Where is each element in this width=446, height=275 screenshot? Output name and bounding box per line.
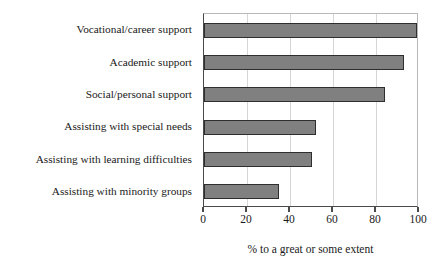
x-tick-label: 60 — [326, 213, 338, 226]
x-tick-label: 0 — [200, 213, 206, 226]
x-tick-label: 40 — [283, 213, 295, 226]
bar — [204, 184, 279, 199]
x-tick-label: 20 — [240, 213, 252, 226]
category-label: Academic support — [109, 56, 192, 68]
bar — [204, 55, 404, 70]
x-tick-mark — [245, 207, 246, 212]
gridline — [376, 14, 377, 206]
bar — [204, 87, 385, 102]
category-label: Assisting with special needs — [64, 120, 192, 132]
x-tick-mark — [288, 207, 289, 212]
x-tick-mark — [374, 207, 375, 212]
bar-chart: Vocational/career supportAcademic suppor… — [0, 0, 446, 275]
x-axis-title: % to a great or some extent — [203, 243, 418, 255]
bar — [204, 152, 312, 167]
category-label: Vocational/career support — [76, 23, 192, 35]
plot-area — [203, 13, 418, 207]
gridline — [247, 14, 248, 206]
x-tick-label: 80 — [369, 213, 381, 226]
category-label: Assisting with minority groups — [52, 185, 192, 197]
x-tick-mark — [417, 207, 418, 212]
bar — [204, 23, 417, 38]
x-tick-label: 100 — [409, 213, 426, 226]
category-label: Assisting with learning difficulties — [36, 153, 192, 165]
x-tick-mark — [331, 207, 332, 212]
bar — [204, 120, 316, 135]
category-label: Social/personal support — [86, 88, 192, 100]
x-axis: 020406080100 — [203, 207, 418, 233]
category-axis-labels: Vocational/career supportAcademic suppor… — [0, 13, 197, 207]
gridline — [290, 14, 291, 206]
x-tick-mark — [202, 207, 203, 212]
gridline — [333, 14, 334, 206]
